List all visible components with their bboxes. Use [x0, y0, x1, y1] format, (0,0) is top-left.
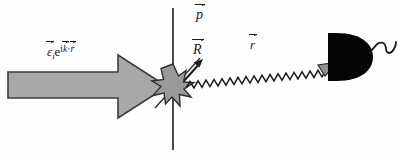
position-r-label: r — [250, 38, 255, 51]
scattered-wavy-ray — [186, 70, 326, 88]
scattering-diagram-figure: εieik·r p R r — [0, 0, 398, 161]
position-r-symbol: r — [71, 44, 75, 54]
r-vector-symbol: r — [250, 38, 255, 51]
photodetector-body — [328, 33, 373, 81]
incident-beam-block-arrow — [8, 55, 167, 118]
incident-field-label: εieik·r — [47, 44, 74, 60]
epsilon-vector-symbol: ε — [47, 45, 52, 58]
position-R-label: R — [193, 43, 202, 57]
detector-cable — [370, 42, 396, 53]
wavevector-k-symbol: k — [63, 44, 67, 54]
diagram-canvas — [0, 0, 398, 161]
dipole-moment-label: p — [196, 8, 203, 22]
p-vector-symbol: p — [196, 8, 203, 22]
R-vector-symbol: R — [193, 43, 202, 57]
